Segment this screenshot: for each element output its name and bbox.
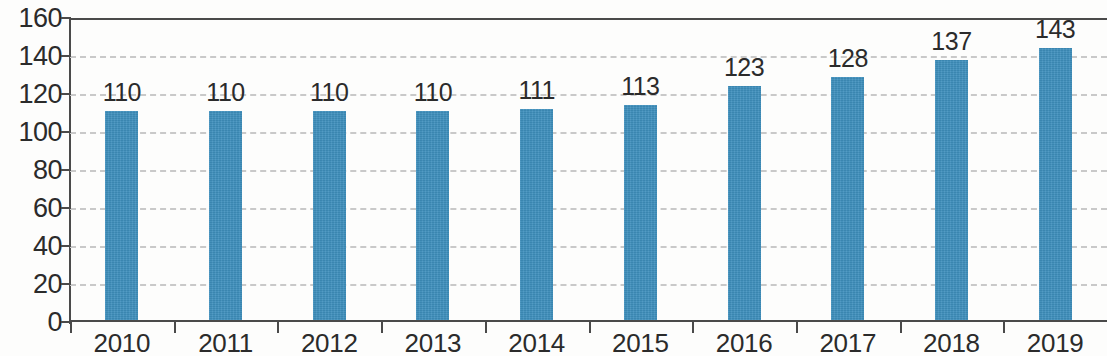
bar — [831, 77, 864, 320]
bar — [520, 109, 553, 320]
bar — [105, 111, 138, 320]
bar — [313, 111, 346, 320]
y-axis-tick-mark — [61, 207, 71, 209]
x-axis-category-label: 2014 — [508, 330, 565, 356]
y-axis-tick-label: 0 — [0, 309, 62, 336]
bar-value-label: 113 — [621, 74, 659, 99]
bar-value-label: 111 — [518, 78, 555, 103]
y-axis-tick-mark — [61, 283, 71, 285]
y-axis-tick-label: 100 — [0, 119, 62, 146]
bar-value-label: 137 — [931, 29, 971, 54]
bar-value-label: 123 — [724, 55, 764, 80]
y-axis-tick-mark — [61, 169, 71, 171]
plot-top-border — [70, 18, 1107, 20]
bar — [728, 86, 761, 320]
y-axis-tick-mark — [61, 131, 71, 133]
x-axis-tick-mark — [1003, 322, 1005, 333]
bar — [416, 111, 449, 320]
x-axis-tick-mark — [485, 322, 487, 333]
x-axis-tick-mark — [277, 322, 279, 333]
bar-value-label: 110 — [310, 80, 348, 105]
bar — [624, 105, 657, 320]
bar-value-label: 143 — [1035, 17, 1075, 42]
y-axis-tick-label: 60 — [0, 195, 62, 222]
gridline — [70, 56, 1107, 58]
y-axis-tick-mark — [61, 55, 71, 57]
y-axis-tick-mark — [61, 93, 71, 95]
bar-value-label: 110 — [414, 80, 452, 105]
y-axis-tick-label: 160 — [0, 5, 62, 32]
plot-area — [70, 18, 1107, 322]
bar-value-label: 110 — [206, 80, 244, 105]
bar-chart: 020406080100120140160 110201011020111102… — [0, 0, 1107, 356]
bar-value-label: 110 — [103, 80, 141, 105]
x-axis-category-label: 2018 — [923, 330, 980, 356]
y-axis-tick-mark — [61, 17, 71, 19]
x-axis-tick-mark — [692, 322, 694, 333]
y-axis-tick-label: 80 — [0, 157, 62, 184]
x-axis-category-label: 2017 — [819, 330, 876, 356]
x-axis-category-label: 2013 — [405, 330, 462, 356]
y-axis-tick-mark — [61, 321, 71, 323]
x-axis-category-label: 2016 — [716, 330, 773, 356]
y-axis-labels: 020406080100120140160 — [0, 0, 62, 356]
x-axis-tick-mark — [381, 322, 383, 333]
y-axis-tick-label: 140 — [0, 43, 62, 70]
bar — [209, 111, 242, 320]
x-axis-tick-mark — [174, 322, 176, 333]
x-axis-tick-mark — [900, 322, 902, 333]
x-axis-tick-mark — [589, 322, 591, 333]
bar — [935, 60, 968, 320]
x-axis-category-label: 2010 — [94, 330, 151, 356]
bar-value-label: 128 — [828, 46, 868, 71]
y-axis-tick-label: 20 — [0, 271, 62, 298]
x-axis-category-label: 2012 — [301, 330, 358, 356]
x-axis-tick-mark — [796, 322, 798, 333]
x-axis-category-label: 2011 — [198, 330, 253, 356]
y-axis-tick-label: 120 — [0, 81, 62, 108]
x-axis-category-label: 2015 — [612, 330, 669, 356]
x-axis-tick-mark — [70, 322, 72, 333]
x-axis-category-label: 2019 — [1027, 330, 1084, 356]
bar — [1039, 48, 1072, 320]
y-axis-tick-mark — [61, 245, 71, 247]
y-axis-tick-label: 40 — [0, 233, 62, 260]
